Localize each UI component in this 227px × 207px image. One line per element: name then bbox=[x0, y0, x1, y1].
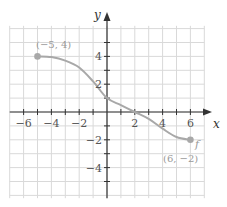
x-tick-label: 6 bbox=[187, 117, 194, 130]
x-tick-label: 4 bbox=[159, 117, 166, 130]
end-point-label: (6, −2) bbox=[163, 153, 198, 164]
start-point-label: (−5, 4) bbox=[36, 39, 71, 50]
y-tick-label: 2 bbox=[95, 78, 102, 91]
x-axis-label: x bbox=[213, 117, 220, 131]
x-tick-label: −4 bbox=[43, 117, 59, 130]
start-point bbox=[34, 53, 41, 60]
x-tick-label: −6 bbox=[15, 117, 31, 130]
y-tick-label: −4 bbox=[86, 162, 102, 175]
function-graph: −6−4−224642−2−4 x y f (−5, 4) (6, −2) bbox=[0, 0, 227, 207]
x-tick-label: −2 bbox=[71, 117, 87, 130]
y-tick-label: −2 bbox=[86, 134, 102, 147]
x-tick-label: 2 bbox=[131, 117, 138, 130]
y-tick-label: 4 bbox=[95, 50, 102, 63]
y-axis-label: y bbox=[93, 8, 101, 22]
end-point bbox=[187, 137, 194, 144]
